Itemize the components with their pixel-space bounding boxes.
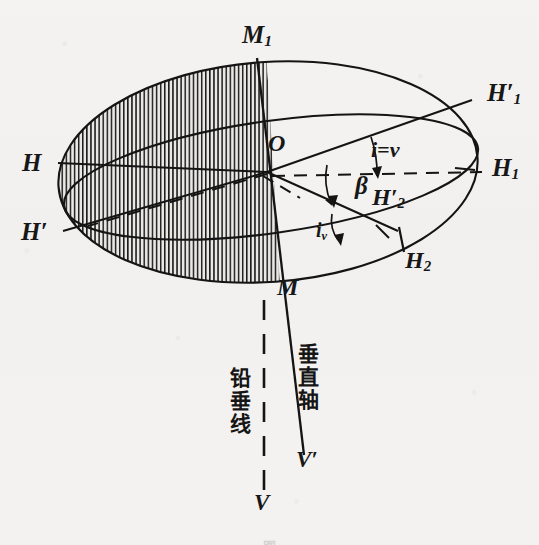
hatched-region-left — [0, 0, 539, 545]
label-H1-prime: H′1 — [487, 80, 521, 107]
figure-canvas: M1 O H H′ H′1 H1 H′2 H2 M V′ V i=v β iv … — [0, 0, 539, 545]
label-V-prime: V′ — [296, 448, 318, 471]
label-H1: H1 — [492, 155, 519, 182]
label-M1: M1 — [242, 22, 272, 49]
label-H: H — [22, 150, 41, 175]
label-H2-prime: H′2 — [372, 185, 405, 211]
label-angle-i-equals-v: i=v — [371, 139, 399, 161]
label-V: V — [254, 491, 269, 514]
label-H2: H2 — [405, 248, 431, 274]
arrowhead-iv — [334, 233, 344, 246]
label-H-prime: H′ — [21, 219, 47, 244]
label-M: M — [277, 275, 298, 299]
label-vertical-axis: 垂直轴 — [296, 343, 318, 412]
label-angle-beta: β — [355, 173, 368, 198]
label-angle-i-v: iv — [316, 220, 327, 242]
figure-caption: 图 — [0, 536, 539, 545]
tick-H2 — [399, 227, 404, 252]
diagram-svg — [0, 0, 539, 545]
label-plumb-line: 铅垂线 — [228, 367, 250, 436]
label-O: O — [268, 131, 285, 155]
